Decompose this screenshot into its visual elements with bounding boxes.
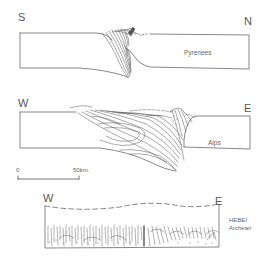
scale-bar <box>18 176 79 179</box>
hebei-section <box>45 203 219 248</box>
pyrenees-section <box>20 27 249 78</box>
diagram-linework <box>0 0 266 261</box>
alps-section <box>20 106 250 171</box>
